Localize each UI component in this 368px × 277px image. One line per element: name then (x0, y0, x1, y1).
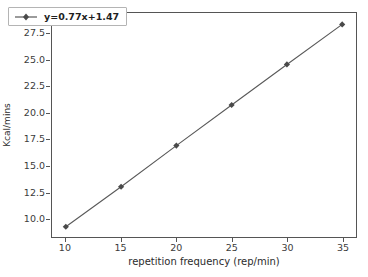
y-axis-tick-mark (46, 219, 50, 220)
x-axis-tick-label: 25 (217, 242, 247, 253)
series-line (66, 24, 342, 226)
legend-marker-icon (14, 12, 38, 22)
data-series-svg (52, 13, 356, 237)
x-axis-tick-mark (121, 238, 122, 242)
y-axis-tick-mark (46, 86, 50, 87)
y-axis-tick-label: 17.5 (24, 134, 45, 144)
y-axis-tick-label: 15.0 (24, 161, 45, 171)
chart-legend: y=0.77x+1.47 (8, 7, 127, 26)
y-axis-tick-label: 10.0 (24, 214, 45, 224)
y-axis-tick-label: 25.0 (24, 55, 45, 65)
y-axis-tick-mark (46, 139, 50, 140)
y-axis-tick-mark (46, 193, 50, 194)
x-axis-tick-label: 20 (161, 242, 191, 253)
y-axis-tick-mark (46, 166, 50, 167)
x-axis-tick-mark (176, 238, 177, 242)
y-axis-tick-label: 20.0 (24, 108, 45, 118)
x-axis-tick-mark (65, 238, 66, 242)
y-axis-tick-mark (46, 33, 50, 34)
x-axis-tick-label: 10 (50, 242, 80, 253)
x-axis-tick-mark (232, 238, 233, 242)
chart-figure: 10.012.515.017.520.022.525.027.5 Kcal/mi… (0, 0, 368, 277)
legend-entry-label: y=0.77x+1.47 (44, 11, 119, 22)
y-axis-title: Kcal/mins (2, 103, 12, 147)
y-axis-tick-label: 12.5 (24, 188, 45, 198)
x-axis-tick-label: 15 (106, 242, 136, 253)
x-axis-tick-label: 35 (328, 242, 358, 253)
y-axis-tick-mark (46, 60, 50, 61)
x-axis-tick-mark (287, 238, 288, 242)
plot-area (51, 12, 357, 238)
x-axis-tick-mark (343, 238, 344, 242)
y-axis-tick-mark (46, 113, 50, 114)
y-axis-tick-label: 22.5 (24, 81, 45, 91)
x-axis-tick-label: 30 (272, 242, 302, 253)
x-axis-title: repetition frequency (rep/min) (51, 256, 357, 267)
y-axis-tick-label: 27.5 (24, 28, 45, 38)
